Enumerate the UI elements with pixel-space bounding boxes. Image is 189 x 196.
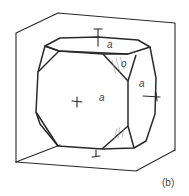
crystal-diagram: a a a o (b) [0, 0, 189, 196]
right-face-label: a [139, 78, 145, 89]
crystal [36, 37, 156, 149]
octahedron-face-label: o [121, 58, 127, 69]
figure-caption: (b) [162, 177, 174, 188]
front-face-label: a [99, 92, 105, 103]
top-face-label: a [107, 39, 113, 50]
